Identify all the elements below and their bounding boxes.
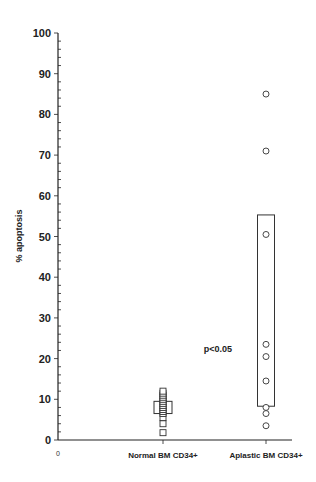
circle-marker: [263, 91, 269, 97]
circle-marker: [263, 341, 269, 347]
y-tick-label: 30: [39, 312, 51, 324]
square-marker: [160, 388, 166, 394]
p-value-annotation: p<0.05: [204, 344, 232, 354]
y-tick-label: 10: [39, 393, 51, 405]
circle-marker: [263, 423, 269, 429]
circle-marker: [263, 404, 269, 410]
y-tick-label: 100: [33, 27, 51, 39]
apoptosis-chart: 0102030405060708090100 % apoptosis 0 Nor…: [0, 0, 316, 482]
square-marker: [160, 421, 166, 427]
category-label-aplastic: Aplastic BM CD34+: [229, 451, 302, 460]
square-marker: [160, 430, 166, 436]
data-points: [160, 91, 269, 436]
y-tick-label: 50: [39, 231, 51, 243]
axes: 0102030405060708090100: [33, 27, 292, 446]
x-origin-label: 0: [56, 450, 60, 457]
y-tick-label: 80: [39, 108, 51, 120]
circle-marker: [263, 231, 269, 237]
y-axis-title: % apoptosis: [14, 209, 24, 262]
y-tick-label: 90: [39, 68, 51, 80]
box-aplastic: [258, 215, 275, 406]
circle-marker: [263, 148, 269, 154]
boxes: [154, 215, 275, 414]
y-tick-label: 60: [39, 190, 51, 202]
y-tick-label: 70: [39, 149, 51, 161]
circle-marker: [263, 411, 269, 417]
circle-marker: [263, 354, 269, 360]
circle-marker: [263, 378, 269, 384]
category-label-normal: Normal BM CD34+: [128, 451, 198, 460]
y-tick-label: 40: [39, 271, 51, 283]
y-tick-label: 0: [45, 434, 51, 446]
y-tick-label: 20: [39, 353, 51, 365]
